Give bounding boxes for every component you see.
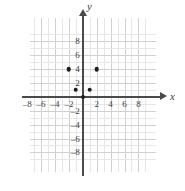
gridline-horizontal (30, 69, 156, 70)
x-axis-line (22, 96, 162, 98)
data-point (67, 67, 72, 72)
y-tick-label: –4 (64, 120, 80, 130)
gridline-horizontal (30, 111, 156, 112)
gridline-horizontal (30, 34, 156, 35)
gridline-horizontal (30, 48, 156, 49)
gridline-horizontal (30, 125, 156, 126)
y-axis-arrow-icon (79, 9, 87, 16)
y-tick-label: –6 (64, 134, 80, 144)
gridline-horizontal (30, 139, 156, 140)
gridline-horizontal (30, 41, 156, 42)
gridline-horizontal (30, 145, 156, 146)
gridline-horizontal (30, 55, 156, 56)
y-tick-label: –8 (64, 147, 80, 157)
data-point (87, 88, 92, 93)
gridline-horizontal (30, 83, 156, 84)
gridline-horizontal (30, 159, 156, 160)
x-axis-label: x (170, 90, 175, 102)
grid-area (30, 18, 156, 172)
gridline-horizontal (30, 62, 156, 63)
y-axis-label: y (87, 0, 92, 12)
gridline-horizontal (30, 76, 156, 77)
coordinate-plane: x y –8–6–4–22468 8642–2–4–6–8 (0, 0, 185, 191)
x-axis-arrow-icon (160, 92, 167, 100)
x-tick-label: 8 (129, 99, 147, 109)
gridline-horizontal (30, 118, 156, 119)
gridline-horizontal (30, 90, 156, 91)
gridline-horizontal (30, 132, 156, 133)
y-tick-label: 6 (64, 50, 80, 60)
y-tick-label: 8 (64, 36, 80, 46)
data-point (94, 67, 99, 72)
y-tick-label: –2 (64, 106, 80, 116)
data-point (74, 88, 79, 93)
gridline-horizontal (30, 152, 156, 153)
origin-marker (81, 95, 85, 99)
y-tick-label: 2 (64, 78, 80, 88)
